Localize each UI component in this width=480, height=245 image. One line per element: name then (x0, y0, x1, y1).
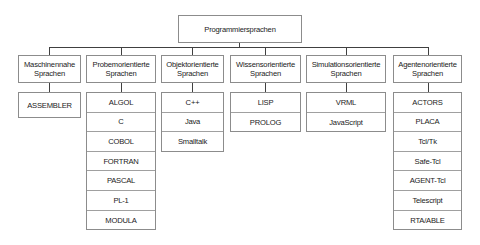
category-agentenorientierte: AgentenorientierteSprachen (393, 55, 462, 83)
category-title: Wissensorientierte (236, 60, 295, 69)
category-subtitle: Sprachen (412, 69, 443, 78)
child-connector-4 (346, 83, 347, 92)
category-title: Objektorientierte (166, 60, 218, 69)
list-item: PLACA (394, 113, 461, 133)
horizontal-connector (49, 47, 429, 48)
list-item: RTA/ABLE (394, 211, 461, 231)
category-objektorientierte: ObjektorientierteSprachen (161, 55, 224, 83)
list-item: PROLOG (231, 113, 300, 133)
items-probemorientierte: ALGOL C COBOL FORTRAN PASCAL PL-1 MODULA (86, 92, 156, 230)
category-subtitle: Sprachen (177, 69, 208, 78)
list-item: PASCAL (87, 171, 155, 191)
items-simulationsorientierte: VRML JavaScript (306, 92, 386, 132)
child-connector-2 (192, 83, 193, 92)
list-item: ACTORS (394, 93, 461, 113)
category-title: Probemorientierte (93, 60, 150, 69)
connector-cat-4 (346, 47, 347, 55)
child-connector-3 (265, 83, 266, 92)
category-simulationsorientierte: SimulationsorientierteSprachen (306, 55, 386, 83)
root-label: Programmiersprachen (204, 25, 275, 34)
list-item: PL-1 (87, 191, 155, 211)
category-probemorientierte: ProbemorientierteSprachen (86, 55, 156, 83)
list-item: Tcl/Tk (394, 132, 461, 152)
list-item: FORTRAN (87, 152, 155, 172)
list-item: MODULA (87, 211, 155, 231)
list-item: JavaScript (307, 113, 385, 133)
items-wissensorientierte: LISP PROLOG (230, 92, 301, 132)
category-title: Simulationsorientierte (312, 60, 381, 69)
connector-cat-2 (192, 47, 193, 55)
child-connector-1 (121, 83, 122, 92)
connector-cat-5 (428, 47, 429, 55)
list-item: COBOL (87, 132, 155, 152)
list-item: LISP (231, 93, 300, 113)
child-connector-5 (428, 83, 429, 92)
category-subtitle: Sprachen (250, 69, 281, 78)
list-item: C++ (162, 93, 223, 113)
items-agentenorientierte: ACTORS PLACA Tcl/Tk Safe-Tcl AGENT-Tcl T… (393, 92, 462, 230)
list-item: Telescript (394, 191, 461, 211)
list-item: ALGOL (87, 93, 155, 113)
item-label: ASSEMBLER (27, 101, 72, 110)
connector-cat-3 (265, 47, 266, 55)
category-title: Agentenorientierte (398, 60, 456, 69)
list-item: Smalltalk (162, 132, 223, 152)
list-item: Safe-Tcl (394, 152, 461, 172)
list-item: AGENT-Tcl (394, 171, 461, 191)
items-objektorientierte: C++ Java Smalltalk (161, 92, 224, 152)
item-assembler: ASSEMBLER (18, 92, 81, 118)
root-node: Programmiersprachen (178, 15, 302, 43)
list-item: C (87, 113, 155, 133)
list-item: VRML (307, 93, 385, 113)
category-wissensorientierte: WissensorientierteSprachen (230, 55, 301, 83)
category-subtitle: Sprachen (106, 69, 137, 78)
category-subtitle: Sprachen (331, 69, 362, 78)
category-subtitle: Sprachen (34, 69, 65, 78)
list-item: Java (162, 113, 223, 133)
category-maschinennahe: MaschinennaheSprachen (18, 55, 81, 83)
child-connector-0 (49, 83, 50, 92)
connector-cat-0 (49, 47, 50, 55)
connector-cat-1 (121, 47, 122, 55)
category-title: Maschinennahe (24, 60, 75, 69)
